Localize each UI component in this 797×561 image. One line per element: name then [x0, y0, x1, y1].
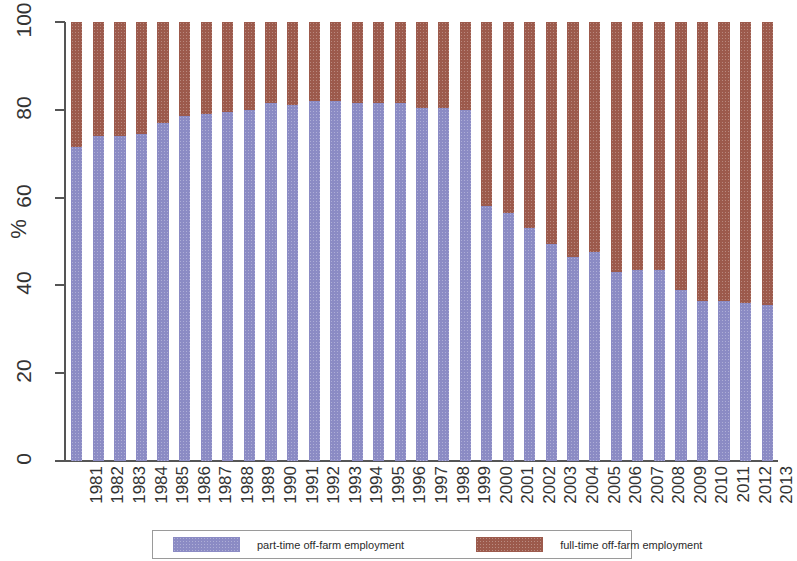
bar-segment-full-time [114, 22, 125, 136]
bar-2000 [481, 22, 492, 461]
x-tick-label: 1998 [454, 466, 474, 524]
bar-2011 [718, 22, 729, 461]
y-tick [55, 197, 65, 199]
x-tick-label: 2010 [712, 466, 732, 524]
bar-segment-full-time [697, 22, 708, 301]
y-tick-label: 0 [12, 435, 36, 483]
bar-segment-part-time [438, 108, 449, 461]
bar-1997 [416, 22, 427, 461]
y-tick-label: 80 [12, 84, 36, 132]
legend-swatch-part-time [173, 537, 240, 552]
bar-1991 [287, 22, 298, 461]
bar-segment-full-time [416, 22, 427, 108]
bar-2006 [611, 22, 622, 461]
bar-2010 [697, 22, 708, 461]
bar-segment-full-time [330, 22, 341, 101]
bar-segment-part-time [136, 134, 147, 461]
bar-segment-full-time [201, 22, 212, 114]
bar-segment-part-time [157, 123, 168, 461]
x-tick-label: 1985 [173, 466, 193, 524]
legend-item-full-time: full-time off-farm employment [476, 537, 702, 552]
y-tick-label: 60 [12, 172, 36, 220]
bar-1998 [438, 22, 449, 461]
x-tick-label: 2009 [691, 466, 711, 524]
bar-2002 [524, 22, 535, 461]
bar-segment-part-time [460, 110, 471, 461]
bar-segment-part-time [179, 116, 190, 461]
bar-segment-full-time [352, 22, 363, 103]
x-tick-label: 1992 [324, 466, 344, 524]
bar-1990 [265, 22, 276, 461]
bar-segment-part-time [546, 244, 557, 461]
y-tick-label: 20 [12, 347, 36, 395]
y-tick [55, 109, 65, 111]
plot-area [66, 22, 778, 461]
legend-swatch-full-time [476, 537, 543, 552]
bar-2008 [654, 22, 665, 461]
x-tick-label: 1994 [367, 466, 387, 524]
x-tick-label: 1993 [346, 466, 366, 524]
bar-segment-full-time [632, 22, 643, 270]
x-tick-label: 2011 [734, 466, 754, 524]
bar-segment-part-time [201, 114, 212, 461]
bar-segment-full-time [740, 22, 751, 303]
x-tick-label: 2008 [669, 466, 689, 524]
bar-2005 [589, 22, 600, 461]
bar-2012 [740, 22, 751, 461]
bar-1986 [179, 22, 190, 461]
x-tick-label: 1996 [410, 466, 430, 524]
legend-item-part-time: part-time off-farm employment [173, 537, 404, 552]
bar-segment-full-time [179, 22, 190, 116]
bar-1984 [136, 22, 147, 461]
x-tick-label: 2000 [497, 466, 517, 524]
bar-segment-full-time [524, 22, 535, 228]
legend-label-part-time: part-time off-farm employment [257, 539, 404, 551]
x-tick-label: 2005 [605, 466, 625, 524]
bar-segment-part-time [567, 257, 578, 461]
bar-segment-full-time [222, 22, 233, 112]
x-tick-label: 2002 [540, 466, 560, 524]
bar-segment-full-time [373, 22, 384, 103]
x-tick-label: 2004 [583, 466, 603, 524]
bar-1982 [93, 22, 104, 461]
bar-1995 [373, 22, 384, 461]
bar-segment-full-time [460, 22, 471, 110]
y-tick-label: 40 [12, 259, 36, 307]
bar-segment-full-time [438, 22, 449, 108]
bar-segment-full-time [567, 22, 578, 257]
bar-segment-part-time [373, 103, 384, 461]
bar-segment-full-time [589, 22, 600, 252]
bar-segment-full-time [287, 22, 298, 105]
x-tick-label: 2001 [518, 466, 538, 524]
bar-segment-part-time [71, 147, 82, 461]
bar-segment-full-time [675, 22, 686, 290]
bar-2013 [762, 22, 773, 461]
bar-segment-part-time [524, 228, 535, 461]
bar-1989 [244, 22, 255, 461]
bar-1992 [309, 22, 320, 461]
bar-segment-part-time [114, 136, 125, 461]
bar-segment-part-time [416, 108, 427, 461]
x-tick-label: 1997 [432, 466, 452, 524]
bar-segment-full-time [309, 22, 320, 101]
bar-1988 [222, 22, 233, 461]
bar-segment-part-time [330, 101, 341, 461]
bar-segment-part-time [244, 110, 255, 461]
bar-segment-full-time [481, 22, 492, 206]
bar-segment-part-time [222, 112, 233, 461]
bar-2001 [503, 22, 514, 461]
bar-segment-part-time [697, 301, 708, 461]
bar-segment-full-time [157, 22, 168, 123]
bar-segment-full-time [718, 22, 729, 301]
y-tick [55, 460, 65, 462]
bar-segment-full-time [136, 22, 147, 134]
bar-segment-full-time [546, 22, 557, 244]
bar-2004 [567, 22, 578, 461]
bar-segment-part-time [632, 270, 643, 461]
x-tick-label: 2003 [561, 466, 581, 524]
bar-1999 [460, 22, 471, 461]
bar-segment-part-time [352, 103, 363, 461]
bar-1985 [157, 22, 168, 461]
x-tick-label: 2007 [648, 466, 668, 524]
x-tick-label: 1984 [152, 466, 172, 524]
